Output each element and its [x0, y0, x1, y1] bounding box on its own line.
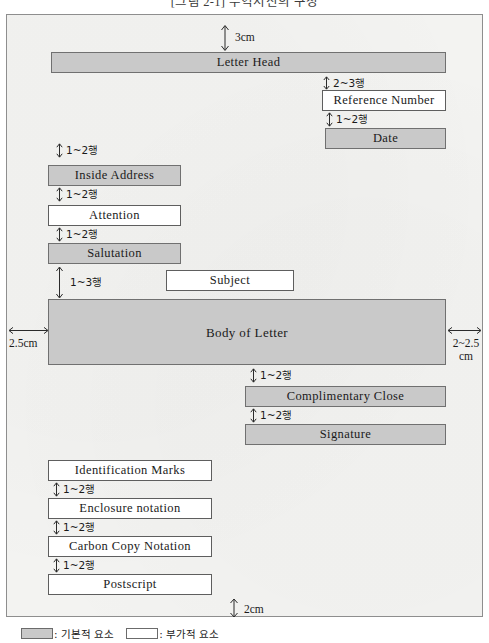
legend-label-optional: : 부가적 요소 [159, 626, 219, 641]
legend-label-primary: : 기본적 요소 [54, 626, 114, 641]
gap-signature-label: 1~2행 [260, 410, 292, 421]
element-letter-head[interactable]: Letter Head [51, 52, 446, 73]
element-reference-number-label: Reference Number [333, 94, 434, 107]
element-enclosure-notation-label: Enclosure notation [79, 502, 180, 515]
gap-inside-address: 1~2행 [55, 143, 98, 158]
element-salutation-label: Salutation [87, 247, 142, 260]
double-arrow-icon [52, 520, 61, 535]
element-salutation[interactable]: Salutation [48, 243, 181, 264]
double-arrow-icon [249, 408, 258, 423]
gap-enclosure-notation-label: 1~2행 [63, 484, 95, 495]
gap-date-label: 1~2행 [336, 114, 368, 125]
gap-attention-label: 1~2행 [66, 189, 98, 200]
gap-carbon-copy-notation-label: 1~2행 [63, 522, 95, 533]
gap-salutation-label: 1~2행 [66, 229, 98, 240]
right-margin-label-line2: cm [448, 350, 484, 362]
double-arrow-icon [322, 76, 331, 90]
element-enclosure-notation[interactable]: Enclosure notation [48, 498, 212, 519]
element-signature[interactable]: Signature [245, 424, 446, 445]
top-margin-label: 3cm [235, 31, 255, 43]
element-complimentary-close[interactable]: Complimentary Close [245, 386, 446, 407]
bottom-margin-label: 2cm [244, 603, 264, 615]
element-carbon-copy-notation[interactable]: Carbon Copy Notation [48, 536, 212, 557]
double-arrow-icon [52, 482, 61, 497]
gap-body-arrow [54, 266, 65, 299]
element-reference-number[interactable]: Reference Number [322, 90, 446, 111]
gap-complimentary-close: 1~2행 [249, 368, 292, 383]
gap-carbon-copy-notation: 1~2행 [52, 520, 95, 535]
gap-body-label: 1~3행 [70, 277, 102, 288]
element-carbon-copy-notation-label: Carbon Copy Notation [69, 540, 191, 553]
double-arrow-icon [55, 187, 64, 202]
legend: : 기본적 요소 : 부가적 요소 [21, 626, 231, 641]
left-margin-label: 2.5cm [9, 337, 37, 349]
left-margin-arrow [8, 325, 49, 336]
element-identification-marks-label: Identification Marks [75, 464, 185, 477]
legend-swatch-primary [21, 628, 53, 639]
gap-date: 1~2행 [325, 112, 368, 127]
gap-complimentary-close-label: 1~2행 [260, 370, 292, 381]
gap-attention: 1~2행 [55, 187, 98, 202]
gap-salutation: 1~2행 [55, 227, 98, 242]
double-arrow-icon [249, 368, 258, 383]
element-complimentary-close-label: Complimentary Close [287, 390, 405, 403]
gap-reference-number: 2~3행 [322, 76, 365, 90]
double-arrow-icon [55, 227, 64, 242]
gap-postscript: 1~2행 [52, 558, 95, 573]
right-margin-arrow [447, 325, 482, 336]
element-letter-head-label: Letter Head [217, 56, 281, 69]
gap-postscript-label: 1~2행 [63, 560, 95, 571]
gap-inside-address-label: 1~2행 [66, 145, 98, 156]
double-arrow-icon [325, 112, 334, 127]
element-attention[interactable]: Attention [48, 205, 181, 226]
element-subject-label: Subject [210, 274, 250, 287]
element-body-of-letter-label: Body of Letter [206, 326, 288, 339]
element-identification-marks[interactable]: Identification Marks [48, 460, 212, 481]
gap-enclosure-notation: 1~2행 [52, 482, 95, 497]
right-margin-label-line1: 2~2.5 [448, 337, 484, 349]
element-inside-address-label: Inside Address [75, 169, 155, 182]
element-subject[interactable]: Subject [166, 270, 294, 291]
element-postscript[interactable]: Postscript [48, 574, 212, 595]
element-attention-label: Attention [89, 209, 140, 222]
element-date[interactable]: Date [325, 128, 446, 149]
element-date-label: Date [373, 132, 398, 145]
bottom-margin-arrow [228, 598, 240, 618]
double-arrow-icon [55, 143, 64, 158]
gap-reference-number-label: 2~3행 [333, 78, 365, 89]
double-arrow-icon [52, 558, 61, 573]
element-body-of-letter[interactable]: Body of Letter [48, 299, 446, 365]
element-postscript-label: Postscript [103, 578, 156, 591]
top-margin-arrow [219, 24, 231, 52]
gap-signature: 1~2행 [249, 408, 292, 423]
figure-title: [그림 2-1] 무역서신의 구성 [0, 0, 489, 10]
element-signature-label: Signature [320, 428, 372, 441]
legend-swatch-optional [126, 628, 158, 639]
element-inside-address[interactable]: Inside Address [48, 165, 181, 186]
